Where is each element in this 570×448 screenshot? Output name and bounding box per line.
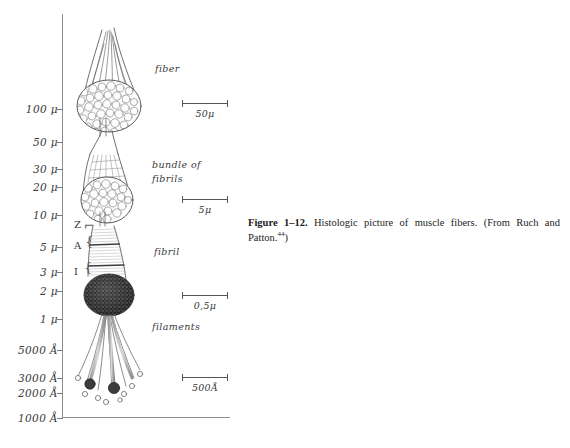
scale-bar-50u: 50μ [182,100,228,119]
figure-page: 100 μ 50 μ 30 μ 20 μ 10 μ 5 μ 3 μ 2 μ 1 … [0,0,570,448]
tick-label-2000a: 2000 Å [18,387,58,399]
scale-bar-05u-line [182,292,228,299]
band-label-z: Z [74,219,81,230]
caption-label: Figure 1–12. [248,217,308,228]
scale-bar-5u-line [182,196,228,203]
band-label-a: A [74,240,81,251]
fiber-cross-section [76,80,141,136]
tick-label-2u: 2 μ [40,285,58,297]
structure-label-filaments: filaments [152,320,200,334]
caption-tail: ) [284,231,288,242]
tick-label-1000a: 1000 Å [18,412,58,424]
tick-label-100u: 100 μ [26,103,58,115]
scale-bar-05u-label: 0,5μ [182,300,228,311]
structure-label-bundle-of-fibrils: bundle of fibrils [152,158,201,186]
scale-bar-50u-line [182,100,228,107]
scale-bar-50u-label: 50μ [182,108,228,119]
z-band-pointer: ⌐ [84,218,95,233]
tick-label-3000a: 3000 Å [18,372,58,384]
a-band-brace: { [85,234,93,249]
bundle-label-line1: bundle of [152,159,201,170]
tick-label-3u: 3 μ [40,266,58,278]
band-label-i: I [74,266,78,277]
scale-bar-500a-label: 500Å [182,382,228,393]
tick-mark-1000a [57,418,63,419]
figure-caption: Figure 1–12. Histologic picture of muscl… [248,216,560,244]
tick-label-5u: 5 μ [40,241,58,253]
tick-label-5000a: 5000 Å [18,344,58,356]
scale-bar-500a: 500Å [182,374,228,393]
scale-bar-05u: 0,5μ [182,292,228,311]
fibril-body [88,226,126,280]
structure-label-fibril: fibril [154,245,180,259]
tick-label-50u: 50 μ [33,136,58,148]
scale-bar-5u: 5μ [182,196,228,215]
bundle-label-line2: fibrils [152,173,183,184]
filaments-group [75,314,142,405]
muscle-fiber-illustration [62,14,230,418]
tick-label-20u: 20 μ [33,181,58,193]
i-band-brace: { [84,260,92,275]
fibril-cross-section [84,274,134,316]
scale-bar-5u-label: 5μ [182,204,228,215]
axis-tick-labels: 100 μ 50 μ 30 μ 20 μ 10 μ 5 μ 3 μ 2 μ 1 … [0,14,58,418]
scale-bar-500a-line [182,374,228,381]
tick-label-30u: 30 μ [33,163,58,175]
tick-label-1u: 1 μ [40,313,58,325]
structure-label-fiber: fiber [155,62,180,76]
fiber-to-bundle-neck [90,131,118,154]
tick-label-10u: 10 μ [33,209,58,221]
